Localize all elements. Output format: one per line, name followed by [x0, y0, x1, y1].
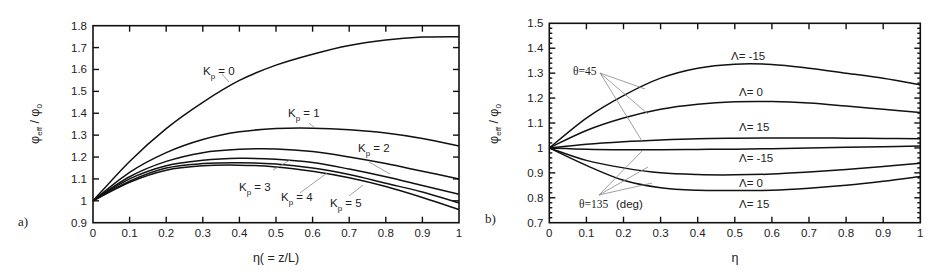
- x-tick-label: 0.8: [838, 227, 854, 239]
- x-tick-label: 0.5: [727, 227, 743, 239]
- label-theta45: θ=45: [573, 65, 597, 77]
- series-line-3: [549, 146, 920, 150]
- svg-text:φeff / φ0: φeff / φ0: [28, 104, 44, 144]
- panel-label-b: b): [485, 211, 496, 226]
- y-tick-label: 1.2: [527, 92, 543, 104]
- label-kp1: Kp = 1: [288, 107, 320, 123]
- svg-text:φeff / φ0: φeff / φ0: [487, 104, 503, 144]
- chart-b-curves: [549, 64, 920, 191]
- y-tick-label: 1: [81, 195, 87, 207]
- label-kp2: Kp = 2: [358, 142, 390, 158]
- label-lambda-0-theta45: Λ= 0: [739, 86, 763, 98]
- y-tick-label: 1.4: [527, 42, 544, 54]
- series-line-1: [549, 101, 920, 147]
- chart-a-curves: [93, 37, 459, 210]
- y-tick-label: 1.5: [527, 17, 543, 29]
- x-tick-label: 0.2: [616, 227, 632, 239]
- y-tick-label: 1.4: [71, 107, 88, 119]
- label-lambda-neg15-theta135: Λ= -15: [739, 152, 773, 164]
- y-tick-label: 1.3: [71, 129, 87, 141]
- y-tick-label: 0.8: [527, 192, 543, 204]
- series-line-0: [93, 37, 459, 201]
- label-kp0: Kp = 0: [203, 65, 235, 81]
- chart-panel-b: 00.10.20.30.40.50.60.70.80.910.70.80.911…: [485, 17, 924, 265]
- x-tick-label: 0: [90, 227, 96, 239]
- label-theta135: θ=135: [579, 198, 608, 210]
- y-tick-label: 1.7: [71, 42, 87, 54]
- x-tick-label: 0.9: [875, 227, 891, 239]
- label-lambda-neg15-theta45: Λ= -15: [731, 50, 765, 62]
- chart-a-ylabel: φeff / φ0: [28, 104, 44, 144]
- y-tick-label: 1.8: [71, 20, 87, 32]
- series-line-5: [549, 148, 920, 191]
- x-tick-label: 0.7: [341, 227, 357, 239]
- x-tick-label: 0.6: [764, 227, 780, 239]
- x-tick-label: 0.8: [378, 227, 394, 239]
- y-tick-label: 1.1: [527, 117, 543, 129]
- x-tick-label: 0.3: [653, 227, 669, 239]
- series-line-4: [549, 148, 920, 175]
- label-lambda-0-theta135: Λ= 0: [739, 177, 763, 189]
- x-tick-label: 0.2: [158, 227, 174, 239]
- figure: 00.10.20.30.40.50.60.70.80.910.911.11.21…: [0, 0, 939, 278]
- chart-panel-a: 00.10.20.30.40.50.60.70.80.910.911.11.21…: [18, 20, 462, 265]
- x-tick-label: 0.7: [801, 227, 817, 239]
- y-tick-label: 1.3: [527, 67, 543, 79]
- y-tick-label: 1.6: [71, 63, 87, 75]
- label-kp4: Kp = 4: [281, 191, 313, 207]
- y-tick-label: 1.5: [71, 85, 87, 97]
- label-deg: (deg): [616, 198, 643, 210]
- x-tick-label: 0.5: [268, 227, 284, 239]
- chart-a-xlabel: η( = z/L): [253, 251, 299, 265]
- x-tick-label: 0: [546, 227, 552, 239]
- y-tick-label: 1: [537, 142, 543, 154]
- x-tick-label: 0.6: [305, 227, 321, 239]
- x-tick-label: 0.9: [414, 227, 430, 239]
- chart-b-xlabel: η: [732, 251, 739, 265]
- label-lambda-15-theta135: Λ= 15: [739, 198, 769, 210]
- y-tick-label: 0.9: [527, 167, 543, 179]
- y-tick-label: 0.9: [71, 217, 87, 229]
- series-line-0: [549, 64, 920, 148]
- x-tick-label: 1: [917, 227, 923, 239]
- x-tick-label: 0.1: [578, 227, 594, 239]
- panel-label-a: a): [18, 214, 28, 229]
- chart-b-ylabel: φeff / φ0: [487, 104, 503, 144]
- chart-a-frame: [93, 26, 459, 223]
- y-tick-label: 0.7: [527, 217, 543, 229]
- label-kp5: Kp = 5: [330, 197, 362, 213]
- chart-b-leaders: [599, 73, 652, 195]
- x-tick-label: 0.4: [690, 227, 707, 239]
- label-kp3: Kp = 3: [239, 181, 271, 197]
- label-lambda-15-theta45: Λ= 15: [739, 121, 769, 133]
- x-tick-label: 0.1: [122, 227, 138, 239]
- x-tick-label: 0.4: [231, 227, 248, 239]
- x-tick-label: 1: [456, 227, 462, 239]
- x-tick-label: 0.3: [195, 227, 211, 239]
- y-tick-label: 1.1: [71, 173, 87, 185]
- y-tick-label: 1.2: [71, 151, 87, 163]
